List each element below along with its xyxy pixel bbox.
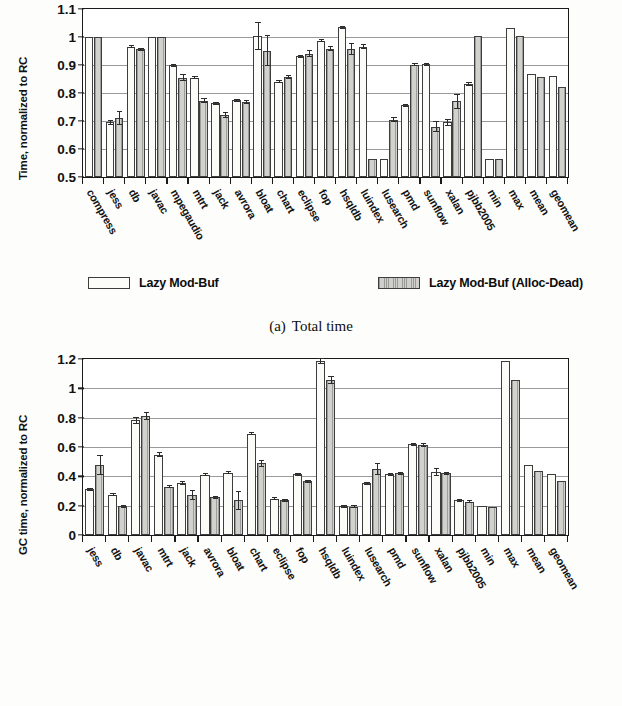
y-axis-title-b: GC time, normalized to RC xyxy=(17,415,29,555)
error-bar xyxy=(204,98,205,102)
error-bar xyxy=(363,44,364,49)
bar xyxy=(293,474,302,535)
bar xyxy=(488,507,497,535)
x-tick-mark xyxy=(221,536,222,542)
x-tick-mark xyxy=(151,536,152,542)
bar xyxy=(247,434,256,535)
bar xyxy=(223,473,232,535)
error-bar xyxy=(390,473,391,476)
bar xyxy=(200,475,209,535)
error-bar xyxy=(423,443,424,447)
bar xyxy=(408,444,417,535)
error-bar xyxy=(123,505,124,508)
x-tick-mark xyxy=(440,178,441,184)
x-tick-mark xyxy=(187,178,188,184)
bar xyxy=(395,473,404,535)
bar xyxy=(210,497,219,535)
bar-group xyxy=(499,359,522,535)
error-bar xyxy=(136,417,137,423)
error-bar xyxy=(279,80,280,83)
bar xyxy=(410,65,418,177)
error-bar xyxy=(288,75,289,78)
legend-item-lazy-mod-buf-alloc-dead-a: Lazy Mod-Buf (Alloc-Dead) xyxy=(378,276,583,290)
x-tick-mark xyxy=(82,536,83,542)
bar xyxy=(389,120,397,177)
bar xyxy=(187,495,196,535)
bar xyxy=(136,49,144,177)
x-tick-mark xyxy=(521,536,522,542)
bar-group xyxy=(291,359,314,535)
error-bar xyxy=(110,120,111,124)
bar xyxy=(431,472,440,535)
bar xyxy=(317,41,325,177)
bar xyxy=(257,463,266,535)
error-bar xyxy=(194,76,195,79)
bar-group xyxy=(146,9,167,177)
x-tick-mark xyxy=(244,536,245,542)
bar-group xyxy=(357,9,378,177)
error-bar xyxy=(400,472,401,475)
error-bar xyxy=(405,104,406,107)
x-tick-label: fop xyxy=(317,187,335,207)
bar-group xyxy=(294,9,315,177)
bar-group xyxy=(125,9,146,177)
x-tick-mark xyxy=(166,178,167,184)
x-tick-label: geomean xyxy=(548,545,581,591)
bar xyxy=(303,481,312,535)
x-tick-mark xyxy=(174,536,175,542)
bar xyxy=(178,78,186,177)
bar-group xyxy=(429,359,452,535)
bar xyxy=(339,506,348,535)
error-bar xyxy=(225,112,226,119)
bar xyxy=(547,474,556,535)
error-bar xyxy=(342,26,343,29)
x-tick-mark xyxy=(103,178,104,184)
bar-group xyxy=(441,9,462,177)
x-tick-mark xyxy=(428,536,429,542)
figure-gc-time: GC time, normalized to RC 00.20.40.60.81… xyxy=(0,350,622,706)
bar-group xyxy=(526,9,547,177)
error-bar xyxy=(205,473,206,476)
bar-group xyxy=(198,359,221,535)
error-bar xyxy=(169,485,170,488)
bar xyxy=(485,159,493,177)
bar-group xyxy=(360,359,383,535)
x-tick-mark xyxy=(405,536,406,542)
bar-group xyxy=(406,359,429,535)
error-bar xyxy=(146,412,147,420)
x-tick-mark xyxy=(504,178,505,184)
x-tick-mark xyxy=(462,178,463,184)
bar-group xyxy=(545,359,568,535)
bar xyxy=(316,361,325,535)
bar xyxy=(296,56,304,177)
bar xyxy=(441,473,450,535)
x-tick-mark xyxy=(567,178,568,184)
bar xyxy=(326,49,334,177)
bar-group xyxy=(175,359,198,535)
x-tick-mark xyxy=(356,178,357,184)
bar xyxy=(557,481,566,535)
error-bar xyxy=(131,45,132,48)
caption-a: (a)Total time xyxy=(0,318,622,335)
x-tick-mark xyxy=(483,178,484,184)
bar-group xyxy=(522,359,545,535)
bar-group xyxy=(83,359,106,535)
bar xyxy=(549,76,557,177)
plot-area-total-time: 0.50.60.70.80.911.1 xyxy=(82,8,569,178)
bar xyxy=(106,122,114,177)
bar-group xyxy=(152,359,175,535)
bar xyxy=(190,78,198,177)
x-tick-label: jack xyxy=(211,187,232,211)
error-bar xyxy=(183,74,184,81)
bar xyxy=(211,103,219,177)
bar xyxy=(108,495,117,535)
bar xyxy=(263,51,271,177)
bar xyxy=(362,483,371,535)
error-bar xyxy=(321,39,322,42)
bar-group xyxy=(399,9,420,177)
x-tick-label: max xyxy=(502,545,523,569)
bar xyxy=(164,487,173,535)
error-bar xyxy=(354,505,355,508)
bar xyxy=(380,159,388,177)
legend-label-lazy-mod-buf-a: Lazy Mod-Buf xyxy=(139,276,219,290)
